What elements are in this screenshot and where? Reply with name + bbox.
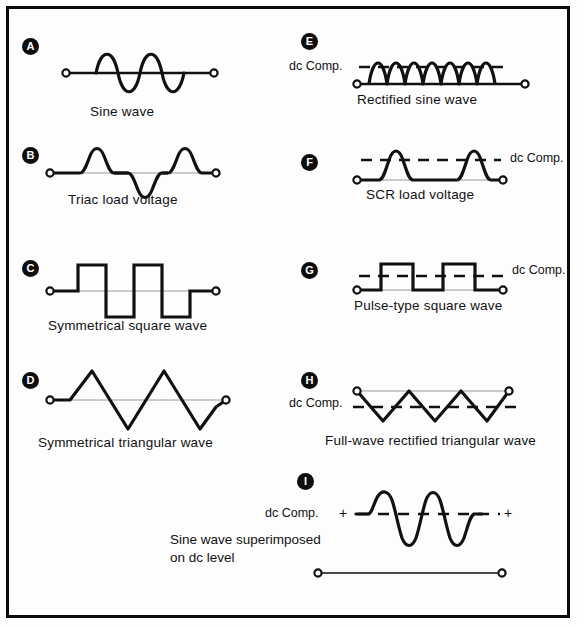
- caption-i: Sine wave superimposed on dc level: [170, 531, 321, 567]
- panel-c: C Symmetrical square wave: [0, 240, 291, 355]
- panel-label-a: A: [22, 38, 39, 55]
- panel-a: A Sine wave: [0, 0, 291, 130]
- panel-d: D Symmetrical triangular wave: [0, 355, 291, 475]
- panel-i: I dc Comp. + + Sine wave superimposed on…: [0, 465, 582, 625]
- caption-i-line1: Sine wave superimposed: [170, 531, 321, 549]
- waveform-figure-page: A Sine wave B Triac load voltage C Symm: [0, 0, 582, 628]
- symmetrical-square-wave: [44, 255, 224, 327]
- panel-label-c: C: [22, 260, 39, 277]
- dc-level-baseline: [310, 563, 510, 583]
- panel-b: B Triac load voltage: [0, 130, 291, 240]
- sine-wave-superimposed-on-dc-level: [348, 490, 508, 555]
- dc-comp-label-f: dc Comp.: [510, 151, 564, 165]
- panel-label-b: B: [22, 147, 39, 164]
- panel-label-h: H: [301, 372, 318, 389]
- caption-a: Sine wave: [90, 104, 154, 119]
- sine-wave: [60, 42, 220, 104]
- pulse-type-square-wave: [351, 252, 511, 298]
- plus-sign-left: +: [339, 505, 347, 521]
- caption-e: Rectified sine wave: [357, 92, 477, 107]
- panel-label-d: D: [22, 372, 39, 389]
- panel-label-e: E: [301, 33, 318, 50]
- dc-comp-label-i: dc Comp.: [265, 506, 319, 520]
- rectified-sine-wave: [351, 48, 531, 90]
- caption-h: Full-wave rectified triangular wave: [325, 433, 536, 448]
- dc-comp-label-e: dc Comp.: [289, 59, 343, 73]
- caption-b: Triac load voltage: [68, 192, 178, 207]
- caption-c: Symmetrical square wave: [48, 318, 207, 333]
- panel-label-i: I: [297, 473, 314, 490]
- panel-label-g: G: [301, 262, 318, 279]
- panel-g: G dc Comp. Pulse-type square wave: [291, 240, 582, 355]
- panel-h: H dc Comp. Full-wave rectified triangula…: [291, 355, 582, 465]
- dc-comp-label-h: dc Comp.: [289, 396, 343, 410]
- full-wave-rectified-triangular-wave: [351, 379, 521, 429]
- caption-i-line2: on dc level: [170, 549, 321, 567]
- scr-load-voltage-wave: [351, 140, 511, 188]
- caption-d: Symmetrical triangular wave: [38, 435, 213, 450]
- panel-f: F dc Comp. SCR load voltage: [291, 130, 582, 240]
- caption-f: SCR load voltage: [366, 187, 474, 202]
- dc-comp-label-g: dc Comp.: [512, 263, 566, 277]
- panel-label-f: F: [301, 154, 318, 171]
- caption-g: Pulse-type square wave: [354, 298, 502, 313]
- panel-e: E dc Comp. Rectified sine wave: [291, 0, 582, 130]
- plus-sign-right: +: [504, 505, 512, 521]
- symmetrical-triangular-wave: [44, 363, 234, 437]
